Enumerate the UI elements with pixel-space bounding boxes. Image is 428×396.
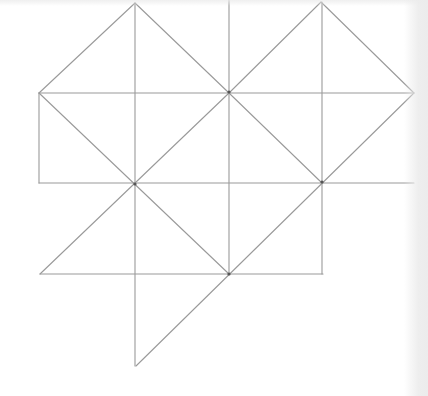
vertex-point bbox=[320, 180, 323, 183]
line-segment bbox=[135, 3, 229, 93]
line-segment bbox=[39, 3, 135, 93]
line-segment bbox=[229, 93, 322, 183]
geometry-diagram bbox=[0, 0, 428, 396]
vertex-point bbox=[133, 182, 136, 185]
line-segment bbox=[229, 2, 321, 93]
line-segment bbox=[321, 2, 414, 93]
vertex-point bbox=[227, 272, 230, 275]
vertex-point bbox=[227, 90, 230, 93]
scan-edge-shadow bbox=[404, 0, 428, 396]
line-segments bbox=[39, 0, 414, 366]
line-segment bbox=[136, 93, 414, 366]
scan-top-shadow bbox=[0, 0, 428, 6]
